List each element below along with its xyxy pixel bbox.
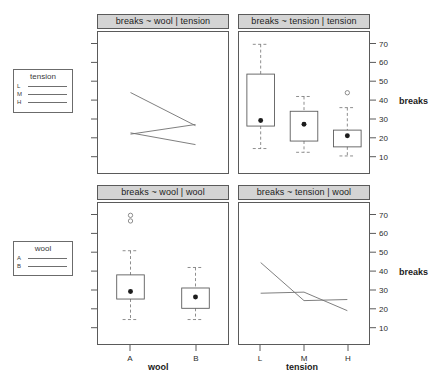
y-tick-label: 60 <box>379 229 388 238</box>
panel-breaks-tension-wool: breaks ~ tension | wool <box>238 185 370 345</box>
panel-strip-title: breaks ~ wool | tension <box>97 14 229 29</box>
y-tick-label: 60 <box>379 58 388 67</box>
y-axis-title-top: breaks <box>399 96 428 106</box>
panel1-left-tick-axis <box>88 31 98 174</box>
boxplot-group-M <box>290 96 318 152</box>
panel-plot-area <box>97 202 229 345</box>
x-axis-title-tension: tension <box>286 362 318 372</box>
x-tick-label: B <box>193 354 198 363</box>
boxplot-group-A <box>117 213 145 319</box>
tension-legend-rows: L M H <box>14 82 72 108</box>
panel-strip-title: breaks ~ tension | wool <box>238 185 370 200</box>
legend-line-swatch <box>28 102 67 103</box>
interaction-lines <box>261 263 348 311</box>
panel-strip-title: breaks ~ tension | tension <box>238 14 370 29</box>
tension-legend: tension L M H <box>13 69 73 113</box>
legend-item: B <box>17 262 68 270</box>
y-tick-label: 20 <box>379 305 388 314</box>
y-tick-label: 10 <box>379 153 388 162</box>
legend-line-swatch <box>28 94 67 95</box>
legend-key-label: M <box>17 90 26 98</box>
wool-legend-rows: A B <box>14 254 72 272</box>
x-axis-title-wool: wool <box>148 362 169 372</box>
panel-plot-area <box>238 31 370 174</box>
legend-line-swatch <box>28 86 67 87</box>
legend-line-swatch <box>28 258 67 259</box>
legend-line-swatch <box>28 266 67 267</box>
wool-legend-title: wool <box>14 242 72 254</box>
boxplot-group-B <box>182 267 210 319</box>
y-tick-label: 70 <box>379 211 388 220</box>
legend-item: L <box>17 82 68 90</box>
y-axis-title-bottom: breaks <box>399 267 428 277</box>
y-tick-label: 10 <box>379 324 388 333</box>
boxplot-group-L <box>247 44 275 148</box>
panel-breaks-wool-wool: breaks ~ wool | wool <box>97 185 229 345</box>
wool-legend: wool A B <box>13 241 73 276</box>
y-tick-label: 40 <box>379 96 388 105</box>
y-tick-label: 20 <box>379 134 388 143</box>
y-tick-label: 50 <box>379 77 388 86</box>
y-tick-label: 70 <box>379 40 388 49</box>
legend-key-label: L <box>17 82 26 90</box>
y-tick-label: 30 <box>379 286 388 295</box>
panel-breaks-tension-tension: breaks ~ tension | tension <box>238 14 370 174</box>
panel2-right-value-axis: 70 60 50 40 30 20 10 <box>370 31 398 174</box>
panel-plot-area <box>238 202 370 345</box>
y-tick-label: 30 <box>379 115 388 124</box>
x-tick-label: A <box>127 354 133 363</box>
interaction-lines <box>131 93 196 145</box>
legend-item: H <box>17 98 68 106</box>
panel3-left-tick-axis <box>88 202 98 345</box>
legend-item: A <box>17 254 68 262</box>
boxplot-group-H <box>334 91 362 156</box>
tension-legend-title: tension <box>14 70 72 82</box>
legend-key-label: B <box>17 262 26 270</box>
legend-item: M <box>17 90 68 98</box>
panel-plot-area <box>97 31 229 174</box>
panel4-right-value-axis: 70 60 50 40 30 20 10 <box>370 202 398 345</box>
x-tick-label: H <box>345 354 351 363</box>
legend-key-label: A <box>17 254 26 262</box>
y-tick-label: 40 <box>379 267 388 276</box>
y-tick-label: 50 <box>379 248 388 257</box>
panel-breaks-wool-tension: breaks ~ wool | tension <box>97 14 229 174</box>
x-tick-label: L <box>258 354 263 363</box>
trellis-plot-figure: tension L M H wool A B <box>0 0 441 379</box>
legend-key-label: H <box>17 98 26 106</box>
panel-strip-title: breaks ~ wool | wool <box>97 185 229 200</box>
